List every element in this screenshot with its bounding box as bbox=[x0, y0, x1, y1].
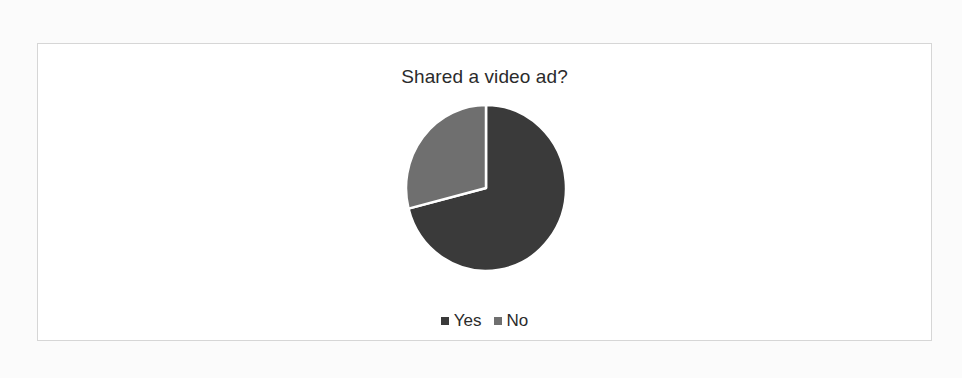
chart-title: Shared a video ad? bbox=[38, 66, 931, 88]
chart-legend: Yes No bbox=[38, 311, 931, 331]
chart-area: Shared a video ad? Yes No bbox=[37, 43, 932, 341]
legend-item-no: No bbox=[494, 311, 529, 331]
legend-item-yes: Yes bbox=[441, 311, 482, 331]
pie-plot-area bbox=[404, 104, 568, 274]
legend-label-no: No bbox=[507, 311, 529, 331]
pie-chart bbox=[404, 104, 568, 274]
legend-swatch-yes-icon bbox=[441, 317, 449, 325]
legend-label-yes: Yes bbox=[454, 311, 482, 331]
legend-swatch-no-icon bbox=[494, 317, 502, 325]
